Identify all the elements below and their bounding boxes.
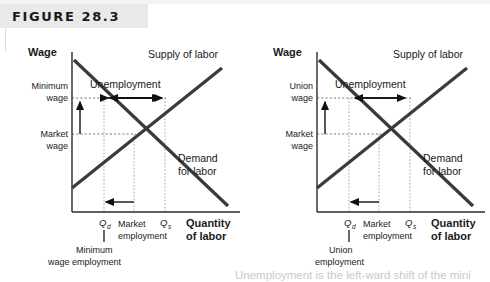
market-wage-label-line1: Market (285, 129, 313, 139)
market-wage-label-line2: wage (290, 141, 313, 151)
market-employment-line2: employment (363, 231, 413, 241)
employment-note-line2: employment (315, 257, 365, 267)
policy-wage-label-line2: wage (290, 93, 313, 103)
market-wage-label-line1: Market (40, 129, 68, 139)
market-employment-line2: employment (118, 231, 168, 241)
supply-curve-label: Supply of labor (393, 48, 464, 60)
qd-subscript: d (107, 223, 111, 230)
clipped-body-text: Unemployment is the left-ward shift of t… (235, 270, 490, 282)
demand-curve-label-line2: for labor (423, 165, 462, 177)
qd-label: Q (344, 217, 352, 228)
demand-curve-label-line2: for labor (178, 165, 217, 177)
unemployment-label: Unemployment (90, 78, 161, 90)
market-wage-label-line2: wage (45, 141, 68, 151)
employment-note-line1: Minimum (76, 245, 113, 255)
x-axis-title-line1: Quantity (431, 217, 476, 229)
employment-note-line2: wage employment (47, 257, 122, 267)
qd-subscript: d (352, 223, 356, 230)
page-title: FIGURE 28.3 (12, 9, 120, 24)
employment-note-line1: Union (329, 245, 353, 255)
x-axis-title-line1: Quantity (186, 217, 231, 229)
y-axis-title: Wage (28, 46, 57, 58)
qs-subscript: s (413, 223, 417, 230)
qs-subscript: s (168, 223, 172, 230)
demand-curve-label-line1: Demand (423, 152, 463, 164)
supply-curve-label: Supply of labor (148, 48, 219, 60)
clipped-body-text-line: Unemployment is the left-ward shift of t… (235, 270, 490, 281)
policy-wage-label-line1: Union (289, 81, 313, 91)
qs-label: Q (405, 217, 413, 228)
qd-label: Q (99, 217, 107, 228)
policy-wage-label-line2: wage (45, 93, 68, 103)
qs-label: Q (160, 217, 168, 228)
chart-panel-union-wage: Wage Supply of labor Demand for labor Un… (245, 34, 490, 274)
market-employment-line1: Market (118, 219, 146, 229)
x-axis-title-line2: of labor (431, 230, 472, 242)
market-employment-line1: Market (363, 219, 391, 229)
demand-curve-label-line1: Demand (178, 152, 218, 164)
y-axis-title: Wage (273, 46, 302, 58)
policy-wage-label-line1: Minimum (31, 81, 68, 91)
chart-panel-minimum-wage: Wage Supply of labor Demand for labor Un… (0, 34, 245, 274)
x-axis-title-line2: of labor (186, 230, 227, 242)
unemployment-label: Unemployment (335, 78, 406, 90)
